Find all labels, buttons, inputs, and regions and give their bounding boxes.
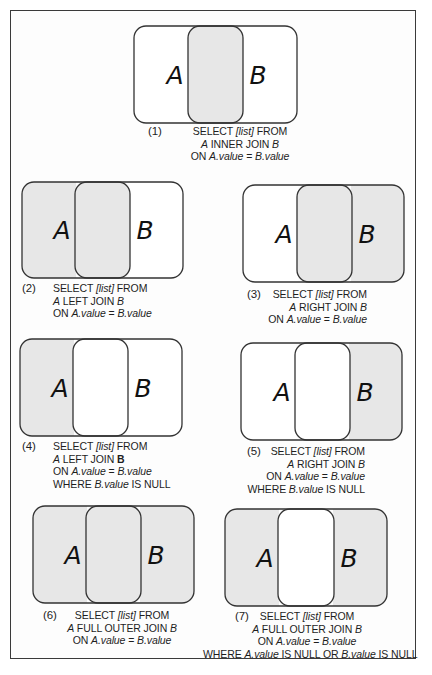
venn-rect-diagram [20, 339, 182, 436]
caption-line: A RIGHT JOIN B [235, 458, 365, 471]
join-diagram-4: AB [20, 339, 182, 436]
caption-line: SELECT [list] FROM [247, 288, 367, 301]
set-label-a: A [273, 379, 290, 404]
caption-line: ON A.value = B.value [203, 635, 411, 648]
caption-line: SELECT [list] FROM [203, 610, 411, 623]
set-label-a: A [53, 218, 70, 243]
caption-line: ON A.value = B.value [184, 150, 296, 163]
caption-line: SELECT [list] FROM [53, 282, 152, 295]
set-label-b: B [358, 221, 375, 246]
set-label-a: A [166, 62, 183, 87]
caption-line: ON A.value = B.value [235, 470, 365, 483]
caption-line: A INNER JOIN B [184, 138, 296, 151]
set-label-b: B [134, 375, 151, 400]
caption-number: (6) [43, 609, 57, 622]
venn-rect-diagram [225, 509, 387, 606]
set-label-a: A [64, 542, 81, 567]
set-label-b: B [136, 218, 153, 243]
venn-rect-diagram [243, 185, 404, 282]
caption-line: ON A.value = B.value [247, 313, 367, 326]
caption-line: SELECT [list] FROM [184, 125, 296, 138]
caption-number: (4) [22, 440, 36, 453]
caption-line: WHERE B.value IS NULL [53, 478, 171, 491]
region-overlap [297, 185, 352, 282]
set-label-a: A [51, 375, 68, 400]
caption-line: SELECT [list] FROM [53, 440, 171, 453]
caption-line: ON A.value = B.value [57, 634, 187, 647]
caption-line: A RIGHT JOIN B [247, 301, 367, 314]
caption-line: WHERE A.value IS NULL OR B.value IS NULL [203, 648, 411, 661]
set-label-b: B [147, 542, 164, 567]
region-overlap [188, 26, 243, 123]
set-label-b: B [340, 545, 357, 570]
caption-line: SELECT [list] FROM [235, 445, 365, 458]
join-diagram-5: AB [241, 343, 402, 440]
venn-rect-diagram [241, 343, 402, 440]
caption-line: A FULL OUTER JOIN B [203, 623, 411, 636]
caption-number: (2) [22, 282, 36, 295]
caption-line: A LEFT JOIN B [53, 295, 152, 308]
caption-line: ON A.value = B.value [53, 465, 171, 478]
caption-line: SELECT [list] FROM [57, 609, 187, 622]
caption-line: A LEFT JOIN B [53, 453, 171, 466]
region-overlap [73, 339, 128, 436]
region-overlap [295, 343, 350, 440]
region-overlap [75, 182, 130, 278]
caption-line: WHERE B.value IS NULL [235, 483, 365, 496]
join-diagram-3: AB [243, 185, 404, 282]
caption-line: A FULL OUTER JOIN B [57, 622, 187, 635]
region-overlap [278, 509, 334, 606]
set-label-a: A [256, 545, 273, 570]
set-label-b: B [249, 62, 266, 87]
set-label-a: A [275, 221, 292, 246]
venn-rect-diagram [22, 182, 183, 278]
venn-rect-diagram [134, 26, 297, 123]
set-label-b: B [356, 379, 373, 404]
join-diagram-2: AB [22, 182, 183, 278]
join-diagram-6: AB [33, 506, 194, 603]
join-diagram-7: AB [225, 509, 387, 606]
join-diagram-1: AB [134, 26, 297, 123]
caption-line: ON A.value = B.value [53, 307, 152, 320]
venn-rect-diagram [33, 506, 194, 603]
region-overlap [86, 506, 141, 603]
caption-number: (1) [148, 125, 162, 138]
